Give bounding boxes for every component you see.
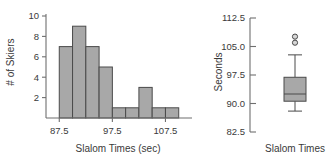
histogram-y-ticks: 246810 [28, 10, 46, 103]
histogram-bars [59, 26, 178, 118]
histogram-x-tick-label: 107.5 [154, 125, 178, 136]
boxplot-box [284, 77, 306, 101]
histogram-bar [73, 26, 86, 118]
histogram-bar [126, 108, 139, 118]
histogram-bar [165, 108, 178, 118]
histogram-y-tick-label: 6 [34, 51, 39, 62]
boxplot-y-tick-label: 112.5 [222, 12, 245, 23]
histogram-y-tick-label: 2 [34, 92, 39, 103]
histogram-bar [139, 87, 152, 118]
boxplot-y-tick-label: 97.5 [227, 69, 246, 80]
histogram-bar [112, 108, 125, 118]
boxplot-outlier-point [292, 34, 297, 39]
boxplot-outlier-point [292, 40, 297, 45]
histogram-x-ticks: 87.597.5107.5 [50, 118, 177, 136]
histogram-bar [99, 67, 112, 118]
boxplot-y-tick-label: 90.0 [227, 98, 246, 109]
boxplot-box-group [284, 34, 306, 111]
histogram-y-tick-label: 10 [28, 10, 39, 21]
boxplot-y-tick-label: 105.0 [221, 41, 245, 52]
histogram-y-tick-label: 8 [34, 31, 39, 42]
histogram-bar [86, 47, 99, 118]
figure-container: 246810 87.597.5107.5 # of Skiers Slalom … [0, 0, 335, 166]
histogram-chart: 246810 87.597.5107.5 # of Skiers Slalom … [0, 0, 200, 166]
histogram-bar [152, 108, 165, 118]
histogram-x-tick-label: 97.5 [103, 125, 122, 136]
boxplot-y-tick-label: 82.5 [227, 126, 246, 137]
boxplot-y-ticks: 82.590.097.5105.0112.5 [221, 12, 256, 137]
histogram-x-tick-label: 87.5 [50, 125, 69, 136]
histogram-y-tick-label: 4 [34, 72, 39, 83]
boxplot-y-axis-label: Seconds [213, 53, 224, 92]
boxplot-category-label: Slalom Times [265, 143, 325, 154]
boxplot-chart: 82.590.097.5105.0112.5 Seconds Slalom Ti… [200, 0, 335, 166]
histogram-x-axis-label: Slalom Times (sec) [75, 143, 160, 154]
histogram-bar [59, 47, 72, 118]
histogram-y-axis-label: # of Skiers [5, 38, 16, 85]
